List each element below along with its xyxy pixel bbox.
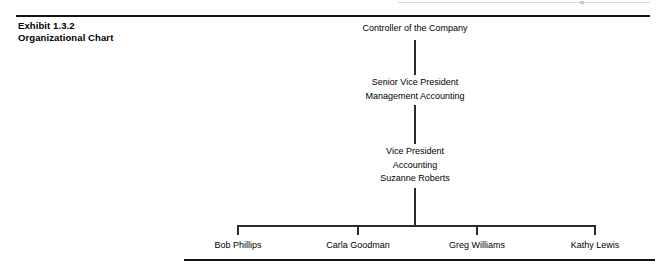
node-leaf-2: Carla Goodman [326,239,390,251]
node-svp-line-1: Senior Vice President [365,76,464,90]
exhibit-number: Exhibit 1.3.2 [18,20,113,32]
scan-artifact-speck [580,1,584,4]
node-vp-line-2: Accounting [380,159,450,173]
connector-stub-leaf-3 [476,225,478,235]
exhibit-title: Exhibit 1.3.2 Organizational Chart [18,20,113,43]
exhibit-page: Exhibit 1.3.2 Organizational Chart Contr… [0,0,662,270]
exhibit-title-text: Organizational Chart [18,32,113,44]
connector-stub-leaf-1 [237,225,239,235]
node-controller: Controller of the Company [362,22,467,36]
node-vp-line-3: Suzanne Roberts [380,172,450,186]
node-controller-line-1: Controller of the Company [362,22,467,36]
node-leaf-3: Greg Williams [449,239,505,251]
bottom-divider-rule [184,259,655,261]
scan-artifact-line [398,2,650,3]
node-svp-line-2: Management Accounting [365,90,464,104]
connector-stub-leaf-2 [357,225,359,235]
top-divider-rule [16,15,650,17]
connector-stub-leaf-4 [594,225,596,235]
connector-horizontal-bus [237,225,596,227]
node-vp-line-1: Vice President [380,145,450,159]
connector-svp-to-vp [414,105,416,144]
connector-vp-to-bus [414,188,416,227]
node-leaf-1: Bob Phillips [214,239,261,251]
connector-controller-to-svp [414,40,416,75]
node-leaf-4: Kathy Lewis [571,239,620,251]
node-vice-president: Vice President Accounting Suzanne Robert… [380,145,450,186]
node-senior-vice-president: Senior Vice President Management Account… [365,76,464,103]
